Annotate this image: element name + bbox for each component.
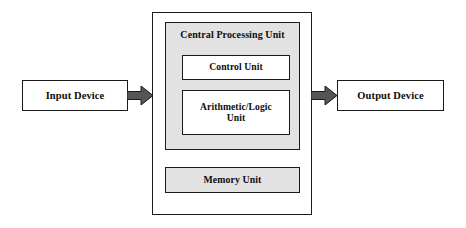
computer-architecture-diagram: Input Device Central Processing Unit Con…: [0, 0, 466, 228]
arithmetic-logic-unit-label-line1: Arithmetic/Logic: [200, 101, 272, 112]
output-device-label: Output Device: [357, 90, 423, 102]
input-device-node: Input Device: [22, 80, 128, 111]
memory-unit-node: Memory Unit: [165, 167, 300, 193]
arithmetic-logic-unit-label: Arithmetic/Logic Unit: [200, 102, 272, 123]
control-unit-node: Control Unit: [182, 55, 290, 80]
arrow-right-icon-input-to-cpu: [127, 85, 153, 106]
arithmetic-logic-unit-node: Arithmetic/Logic Unit: [182, 90, 290, 135]
arithmetic-logic-unit-label-line2: Unit: [227, 112, 246, 123]
central-processing-unit-label: Central Processing Unit: [165, 27, 300, 42]
input-device-label: Input Device: [46, 90, 105, 102]
control-unit-label: Control Unit: [209, 62, 263, 73]
memory-unit-label: Memory Unit: [204, 175, 262, 186]
output-device-node: Output Device: [337, 80, 444, 111]
arrow-right-icon-cpu-to-output: [311, 85, 337, 106]
